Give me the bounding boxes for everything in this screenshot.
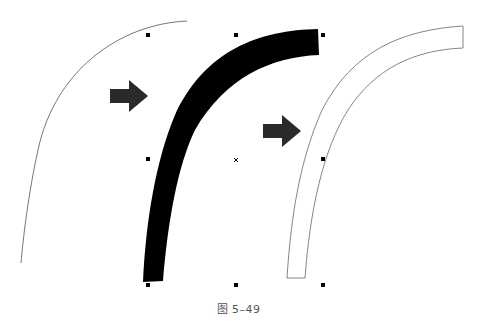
handle-top-middle[interactable] — [234, 33, 238, 37]
handle-bottom-middle[interactable] — [234, 283, 238, 287]
handle-top-left[interactable] — [146, 33, 150, 37]
handle-middle-left[interactable] — [146, 157, 150, 161]
handle-middle-right[interactable] — [321, 157, 325, 161]
figure-canvas — [0, 0, 477, 324]
handle-bottom-left[interactable] — [146, 283, 150, 287]
handle-top-right[interactable] — [321, 33, 325, 37]
handle-bottom-right[interactable] — [321, 283, 325, 287]
figure-caption: 图 5–49 — [0, 300, 477, 316]
